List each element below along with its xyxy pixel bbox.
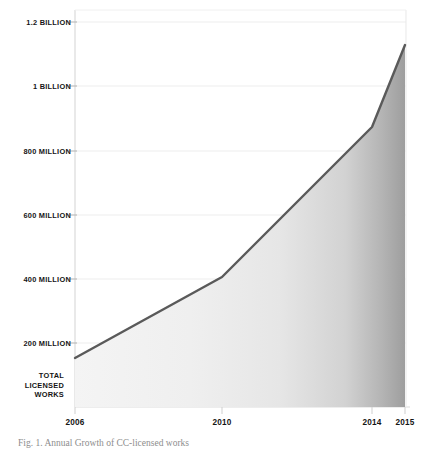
x-axis-label-2010: 2010	[212, 418, 231, 427]
area-fill	[75, 45, 405, 407]
x-axis-label-2015: 2015	[395, 418, 414, 427]
x-tick-marks	[75, 407, 405, 414]
figure-container: 1.2 BILLION 1 BILLION 800 MILLION 600 MI…	[0, 0, 423, 450]
series-legend-line-1: TOTAL	[6, 371, 64, 381]
y-axis-label-200m: 200 MILLION	[23, 339, 71, 348]
series-legend-line-2: LICENSED	[6, 381, 64, 391]
x-axis-label-2006: 2006	[65, 418, 84, 427]
y-axis-label-1200m: 1.2 BILLION	[26, 18, 71, 27]
y-axis-label-1000m: 1 BILLION	[33, 82, 71, 91]
series-legend-label: TOTAL LICENSED WORKS	[6, 371, 64, 400]
series-legend-line-3: WORKS	[6, 390, 64, 400]
y-axis-label-800m: 800 MILLION	[23, 147, 71, 156]
y-axis-label-400m: 400 MILLION	[23, 275, 71, 284]
y-axis-label-600m: 600 MILLION	[23, 211, 71, 220]
figure-caption: Fig. 1. Annual Growth of CC-licensed wor…	[18, 438, 418, 448]
x-axis-label-2014: 2014	[362, 418, 381, 427]
